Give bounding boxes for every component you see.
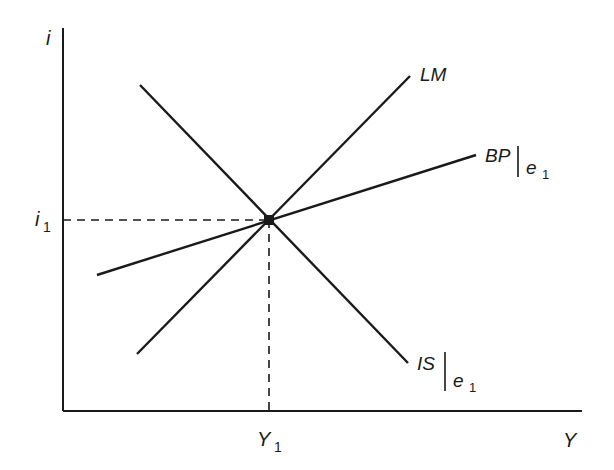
interest-level-subscript: 1: [43, 219, 51, 235]
interest-level-label: i: [35, 208, 40, 230]
bp-curve-label: BP: [485, 145, 511, 166]
output-level-subscript: 1: [274, 439, 282, 455]
y-axis-label: i: [46, 27, 51, 49]
bp-curve: [97, 155, 476, 275]
bp-curve-qualifier: e: [526, 157, 537, 178]
output-level-label: Y: [257, 428, 272, 450]
bp-curve-qualifier-subscript: 1: [542, 167, 549, 182]
lm-curve-label: LM: [420, 64, 447, 85]
x-axis-label: Y: [563, 429, 578, 451]
equilibrium-point: [264, 215, 274, 225]
is-curve-qualifier-subscript: 1: [469, 380, 476, 395]
is-lm-bp-diagram: i Y i 1 Y 1 LM BP e 1 IS e 1: [0, 0, 614, 470]
is-curve-label: IS: [417, 353, 435, 374]
is-curve-qualifier: e: [453, 370, 464, 391]
